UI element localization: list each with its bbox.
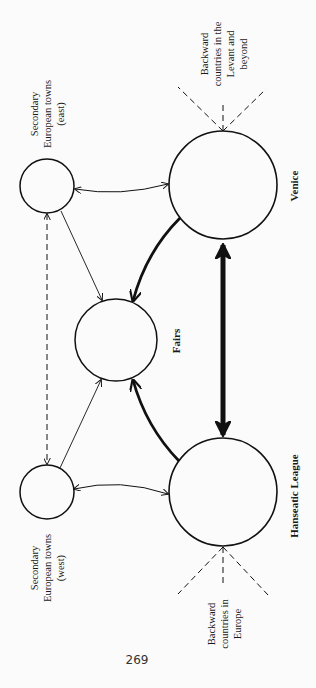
svg-text:Backward: Backward: [206, 602, 217, 645]
hanseatic-to-fairs-arrow: [133, 380, 179, 461]
svg-text:European towns: European towns: [42, 80, 53, 148]
venice-label: Venice: [288, 171, 300, 202]
page-number: 269: [126, 653, 149, 667]
levant-label: Backward countries in the Levant and bey…: [199, 21, 249, 86]
svg-text:Secondary: Secondary: [29, 545, 40, 590]
hanseatic-league-label: Hanseatic League: [288, 454, 300, 538]
svg-text:Levant and: Levant and: [225, 30, 236, 78]
east-venice-arrow: [75, 184, 168, 192]
svg-text:countries in the: countries in the: [212, 21, 223, 86]
svg-text:Secondary: Secondary: [29, 91, 40, 136]
europe-periphery-rays: [178, 547, 268, 595]
venice-to-fairs-arrow: [133, 218, 180, 301]
svg-text:countries in: countries in: [219, 599, 230, 649]
hanseatic-league-node: [169, 438, 277, 546]
towns-west-label: Secondary European towns (west): [29, 534, 67, 602]
towns-west-node: [20, 465, 74, 519]
svg-text:Backward: Backward: [199, 32, 210, 75]
levant-periphery-rays: [178, 87, 266, 131]
svg-text:(west): (west): [55, 554, 67, 581]
svg-text:European towns: European towns: [42, 534, 53, 602]
fairs-node: [75, 299, 157, 381]
svg-text:beyond: beyond: [238, 38, 249, 70]
east-to-fairs-arrow: [61, 211, 102, 300]
west-to-fairs-arrow: [60, 380, 101, 468]
venice-node: [169, 131, 277, 239]
svg-text:(east): (east): [55, 102, 67, 126]
towns-east-node: [20, 159, 74, 213]
west-hanseatic-arrow: [74, 485, 168, 494]
trade-network-diagram: Venice Hanseatic League Fairs Secondary …: [0, 0, 316, 688]
svg-text:Europe: Europe: [232, 609, 243, 640]
towns-east-label: Secondary European towns (east): [29, 80, 67, 148]
fairs-label: Fairs: [170, 328, 182, 353]
europe-label: Backward countries in Europe: [206, 599, 243, 649]
